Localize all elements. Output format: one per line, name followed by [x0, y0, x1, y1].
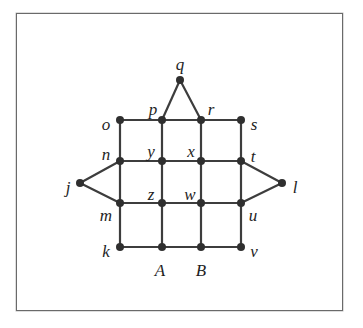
node-A	[158, 243, 166, 251]
edge-p-q	[162, 80, 180, 120]
graph-svg: qoprsnyxtjlzwmukABv	[0, 0, 363, 328]
edge-l-t	[241, 161, 282, 183]
node-w	[197, 199, 205, 207]
node-label-l: l	[293, 178, 298, 197]
node-z	[158, 199, 166, 207]
node-label-n: n	[102, 145, 111, 164]
node-label-m: m	[100, 206, 112, 225]
edge-j-m	[80, 183, 120, 203]
node-label-B: B	[196, 261, 207, 280]
node-y	[158, 157, 166, 165]
node-label-o: o	[102, 115, 111, 134]
node-B	[197, 243, 205, 251]
node-label-p: p	[148, 100, 158, 119]
node-j	[76, 179, 84, 187]
node-label-s: s	[251, 115, 258, 134]
node-t	[237, 157, 245, 165]
node-label-y: y	[145, 142, 155, 161]
node-label-r: r	[208, 100, 215, 119]
node-m	[116, 199, 124, 207]
node-label-q: q	[176, 55, 185, 74]
node-label-u: u	[249, 206, 258, 225]
diagram-canvas: qoprsnyxtjlzwmukABv	[0, 0, 363, 328]
node-x	[197, 157, 205, 165]
node-s	[237, 116, 245, 124]
node-label-x: x	[186, 142, 195, 161]
edge-q-r	[180, 80, 201, 120]
node-label-k: k	[102, 242, 110, 261]
node-n	[116, 157, 124, 165]
edge-l-u	[241, 183, 282, 203]
node-label-t: t	[251, 147, 257, 166]
node-label-j: j	[64, 178, 71, 197]
node-label-z: z	[147, 185, 155, 204]
node-label-v: v	[250, 242, 258, 261]
node-label-w: w	[184, 185, 196, 204]
node-u	[237, 199, 245, 207]
node-q	[176, 76, 184, 84]
node-p	[158, 116, 166, 124]
node-v	[237, 243, 245, 251]
node-l	[278, 179, 286, 187]
node-label-A: A	[154, 261, 166, 280]
node-k	[116, 243, 124, 251]
edge-j-n	[80, 161, 120, 183]
node-o	[116, 116, 124, 124]
node-r	[197, 116, 205, 124]
